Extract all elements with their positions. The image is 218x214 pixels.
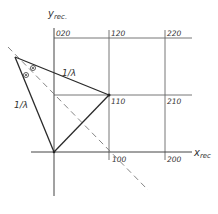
- left-edge-label: 1/λ: [14, 100, 28, 110]
- x-axis-label: xrec: [193, 147, 211, 160]
- grid-label-210: 210: [167, 97, 182, 106]
- lattice-grid: [54, 30, 192, 160]
- axes: [31, 28, 192, 196]
- circle-markers: [24, 66, 36, 78]
- grid-label-110: 110: [111, 97, 126, 106]
- origin-marker: [53, 151, 56, 154]
- grid-label-120: 120: [111, 29, 126, 38]
- grid-label-200: 200: [167, 155, 182, 164]
- reciprocal-lattice-diagram: yrec. xrec 020 120 220 110 210 100 200 1…: [0, 0, 218, 214]
- grid-label-100: 100: [112, 155, 127, 164]
- dashed-diagonal: [8, 47, 148, 190]
- grid-label-020: 020: [56, 29, 71, 38]
- grid-label-220: 220: [167, 29, 182, 38]
- y-axis-label: yrec.: [47, 8, 67, 21]
- upper-edge-label: 1/λ: [62, 68, 76, 78]
